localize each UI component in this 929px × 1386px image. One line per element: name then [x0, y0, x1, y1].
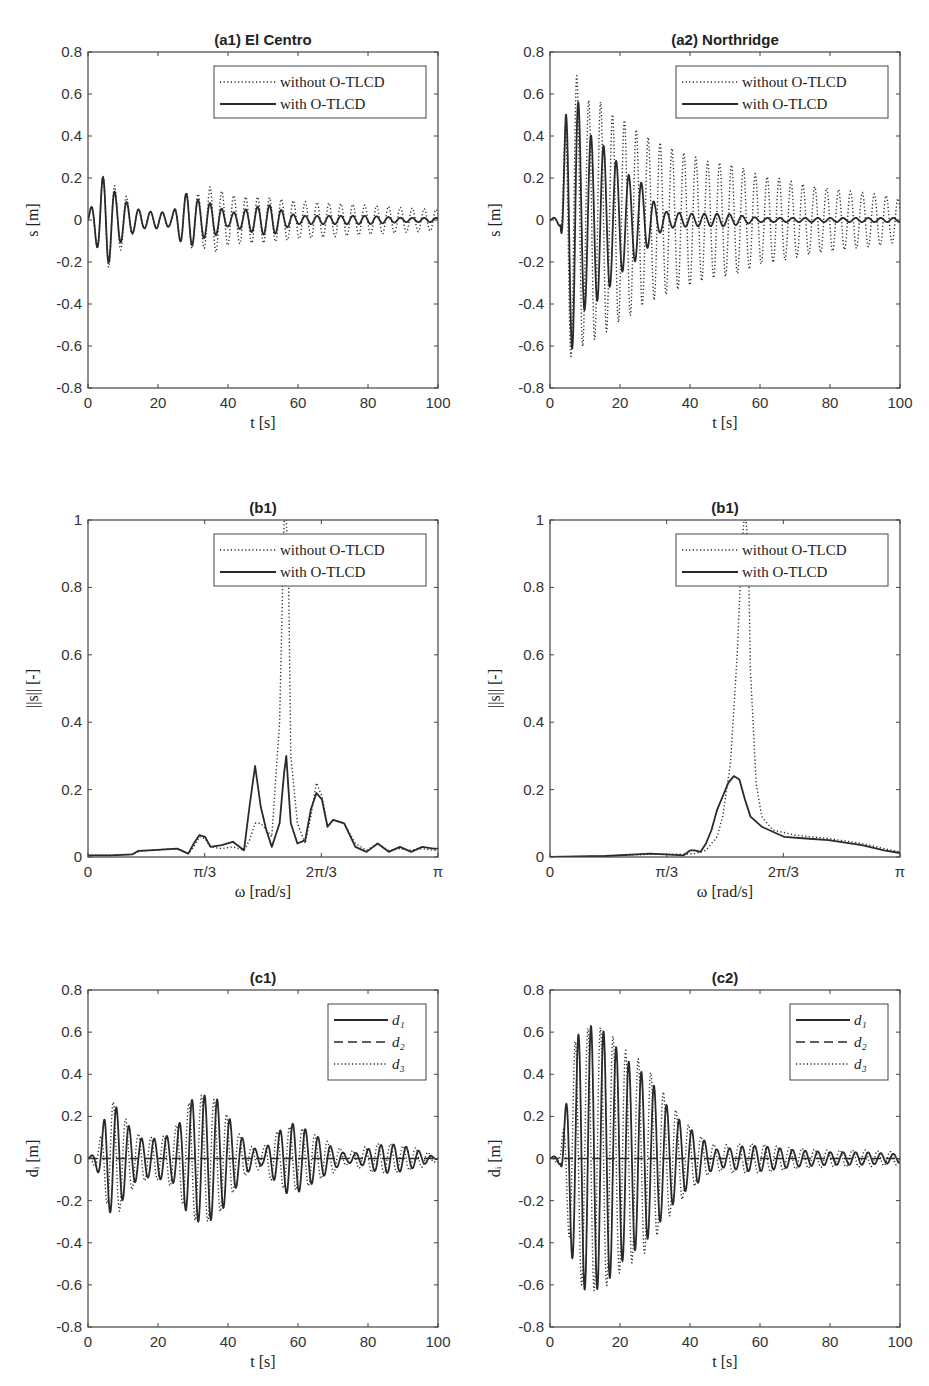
y-tick-label: -0.2 [518, 1192, 544, 1209]
series-with-o-tlcd [88, 756, 438, 855]
x-tick-label: 0 [84, 1333, 92, 1350]
y-tick-label: 0.2 [523, 1107, 544, 1124]
y-tick-label: -0.8 [56, 1318, 82, 1335]
x-tick-label: 20 [612, 1333, 629, 1350]
series-without-o-tlcd [88, 177, 438, 268]
series-group [88, 177, 438, 268]
chart-c2: 020406080100-0.8-0.6-0.4-0.200.20.40.60.… [486, 969, 913, 1370]
y-tick-label: -0.4 [518, 295, 544, 312]
y-tick-label: 0 [74, 1150, 82, 1167]
figure-root: 020406080100-0.8-0.6-0.4-0.200.20.40.60.… [0, 0, 929, 1386]
x-tick-label: 60 [752, 394, 769, 411]
x-tick-label: π/3 [655, 863, 678, 880]
y-tick-label: 1 [536, 511, 544, 528]
x-tick-label: 20 [150, 1333, 167, 1350]
y-axis-label: ||s|| [-] [24, 669, 42, 708]
chart-title: (c2) [712, 969, 739, 986]
y-tick-label: 0.4 [61, 713, 82, 730]
y-tick-label: -0.2 [56, 253, 82, 270]
x-tick-label: 80 [360, 394, 377, 411]
x-tick-label: π [433, 863, 443, 880]
y-tick-label: -0.6 [56, 337, 82, 354]
x-tick-label: 20 [150, 394, 167, 411]
y-tick-label: 0.2 [61, 1107, 82, 1124]
y-tick-label: 0.8 [523, 578, 544, 595]
x-tick-label: 80 [822, 394, 839, 411]
y-tick-label: 0.8 [523, 981, 544, 998]
x-tick-label: 40 [220, 1333, 237, 1350]
x-axis-label: t [s] [712, 414, 737, 431]
y-tick-label: -0.8 [518, 1318, 544, 1335]
x-tick-label: 100 [887, 394, 912, 411]
y-tick-label: 0.6 [61, 85, 82, 102]
y-tick-label: 0.2 [523, 169, 544, 186]
y-tick-label: 0.2 [61, 169, 82, 186]
x-axis-label: t [s] [250, 414, 275, 431]
y-tick-label: 0.4 [523, 713, 544, 730]
y-tick-label: 1 [74, 511, 82, 528]
y-tick-label: 0 [536, 848, 544, 865]
x-tick-label: 80 [360, 1333, 377, 1350]
series-with-o-tlcd [550, 102, 900, 348]
x-tick-label: 40 [682, 1333, 699, 1350]
y-tick-label: 0.4 [61, 1065, 82, 1082]
y-tick-label: -0.4 [56, 1234, 82, 1251]
x-tick-label: π/3 [193, 863, 216, 880]
x-axis-label: ω [rad/s] [235, 883, 291, 900]
chart-b1_right: 0π/32π/3π00.20.40.60.81(b1)ω [rad/s]||s|… [486, 499, 905, 900]
x-tick-label: 0 [546, 863, 554, 880]
y-tick-label: -0.6 [518, 337, 544, 354]
legend-label: d₃ [854, 1056, 867, 1072]
y-axis-label: dᵢ [m] [24, 1140, 41, 1178]
y-tick-label: 0.6 [523, 85, 544, 102]
chart-a1: 020406080100-0.8-0.6-0.4-0.200.20.40.60.… [24, 31, 451, 431]
y-tick-label: 0.2 [61, 781, 82, 798]
legend-label: without O-TLCD [742, 74, 847, 90]
y-tick-label: 0.4 [61, 127, 82, 144]
legend-label: without O-TLCD [280, 74, 385, 90]
x-tick-label: 20 [612, 394, 629, 411]
x-tick-label: π [895, 863, 905, 880]
chart-c1: 020406080100-0.8-0.6-0.4-0.200.20.40.60.… [24, 969, 451, 1370]
series-with-o-tlcd [550, 776, 900, 857]
x-axis-label: ω [rad/s] [697, 883, 753, 900]
y-tick-label: 0.4 [523, 127, 544, 144]
y-axis-label: s [m] [24, 203, 41, 236]
chart-b1_left: 0π/32π/3π00.20.40.60.81(b1)ω [rad/s]||s|… [24, 499, 443, 900]
series-with-o-tlcd [88, 177, 438, 262]
y-tick-label: 0.8 [61, 578, 82, 595]
legend: d₁d₂d₃ [328, 1004, 426, 1080]
x-tick-label: 60 [752, 1333, 769, 1350]
legend-label: d₂ [392, 1034, 405, 1050]
chart-title: (a2) Northridge [671, 31, 779, 48]
x-tick-label: 40 [682, 394, 699, 411]
y-tick-label: -0.2 [56, 1192, 82, 1209]
legend: without O-TLCDwith O-TLCD [214, 66, 426, 118]
y-tick-label: 0 [536, 211, 544, 228]
chart-title: (a1) El Centro [214, 31, 312, 48]
legend: without O-TLCDwith O-TLCD [676, 534, 888, 586]
x-tick-label: 100 [425, 394, 450, 411]
x-tick-label: 40 [220, 394, 237, 411]
x-axis-label: t [s] [250, 1353, 275, 1370]
x-tick-label: 0 [546, 1333, 554, 1350]
y-axis-label: dᵢ [m] [486, 1140, 503, 1178]
legend-label: without O-TLCD [742, 542, 847, 558]
legend-label: with O-TLCD [280, 564, 366, 580]
y-tick-label: 0 [536, 1150, 544, 1167]
y-tick-label: 0 [74, 211, 82, 228]
legend-label: d₁ [854, 1012, 867, 1028]
y-tick-label: 0 [74, 848, 82, 865]
chart-title: (b1) [249, 499, 277, 516]
y-tick-label: 0.2 [523, 781, 544, 798]
y-tick-label: -0.4 [518, 1234, 544, 1251]
legend: without O-TLCDwith O-TLCD [214, 534, 426, 586]
y-tick-label: -0.2 [518, 253, 544, 270]
y-tick-label: 0.8 [61, 43, 82, 60]
x-tick-label: 100 [425, 1333, 450, 1350]
x-tick-label: 0 [546, 394, 554, 411]
y-axis-label: ||s|| [-] [486, 669, 504, 708]
x-tick-label: 100 [887, 1333, 912, 1350]
y-tick-label: -0.4 [56, 295, 82, 312]
y-tick-label: 0.6 [523, 1023, 544, 1040]
